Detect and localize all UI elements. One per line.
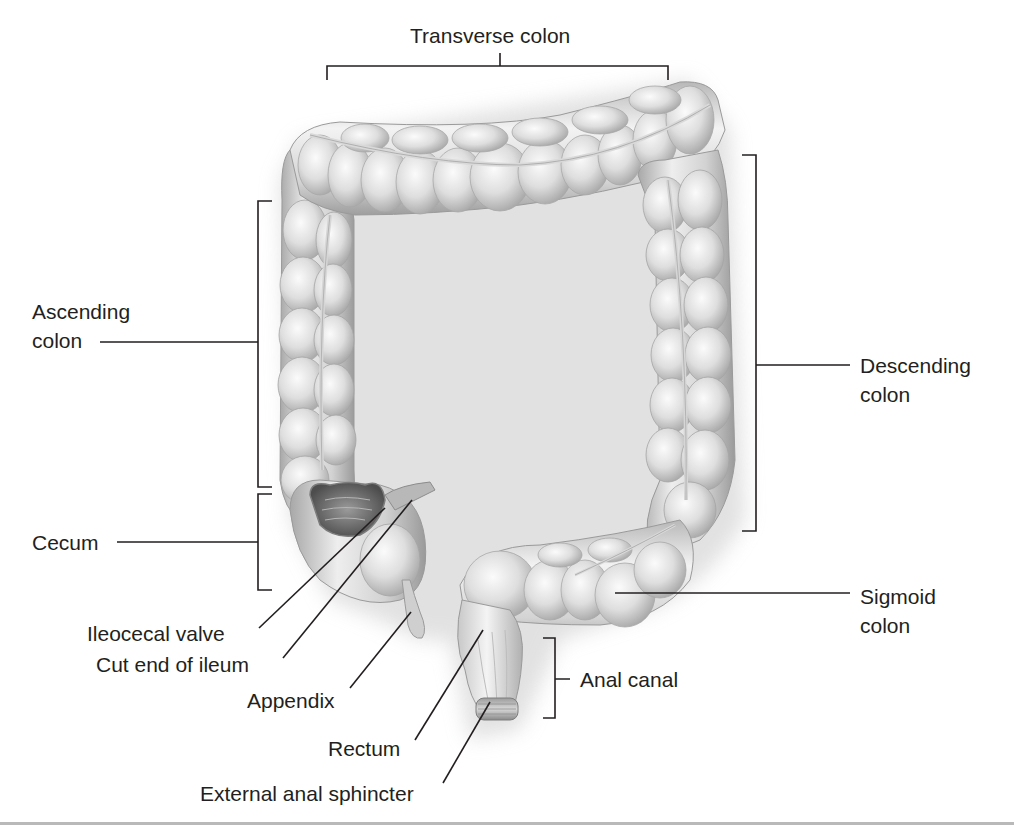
cecum-bracket xyxy=(117,494,272,590)
label-rectum: Rectum xyxy=(328,734,400,763)
label-ascending-colon-line1: Ascending xyxy=(32,297,130,326)
label-ileocecal-valve: Ileocecal valve xyxy=(87,619,225,648)
label-sigmoid-colon-line1: Sigmoid xyxy=(860,582,936,611)
label-sigmoid-colon: Sigmoid colon xyxy=(860,582,936,640)
label-transverse-colon: Transverse colon xyxy=(410,21,570,50)
caption-divider xyxy=(0,822,1014,825)
colon-illustration xyxy=(0,0,1014,831)
appendix-leader xyxy=(350,612,411,688)
label-cut-end-of-ileum: Cut end of ileum xyxy=(96,650,249,679)
label-descending-colon-line1: Descending xyxy=(860,351,971,380)
label-appendix: Appendix xyxy=(247,686,335,715)
label-cecum: Cecum xyxy=(32,528,99,557)
label-ascending-colon: Ascending colon xyxy=(32,297,130,355)
transverse-colon-bracket xyxy=(327,53,668,80)
label-descending-colon: Descending colon xyxy=(860,351,971,409)
label-ascending-colon-line2: colon xyxy=(32,326,130,355)
descending-colon-bracket xyxy=(742,155,850,531)
label-external-anal-sphincter: External anal sphincter xyxy=(200,779,414,808)
label-sigmoid-colon-line2: colon xyxy=(860,611,936,640)
cecum-shape xyxy=(290,480,435,603)
label-anal-canal: Anal canal xyxy=(580,665,678,694)
colon-anatomy-diagram: Transverse colon Ascending colon Cecum I… xyxy=(0,0,1014,831)
label-descending-colon-line2: colon xyxy=(860,380,971,409)
descending-colon-shape xyxy=(638,150,735,560)
